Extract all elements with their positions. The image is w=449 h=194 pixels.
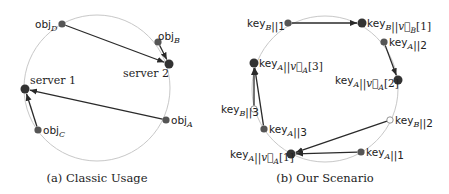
caption-classic-usage: (a) Classic Usage [46,171,147,185]
node-kAv3: keyA||v⃗A[3] [250,57,323,75]
node-objC: objC [34,124,65,139]
node-server2: server 2 [123,60,174,81]
edge-arrow-kA2-to-kAv2 [385,45,396,75]
node-kA1: keyA||1 [357,146,404,162]
server-node-dot [21,85,30,94]
node-label: keyA||2 [389,36,427,52]
edge-arrow-kA1-to-kAv1 [296,152,357,154]
node-label: keyB||1 [247,17,285,33]
hash-ring [252,16,398,162]
node-label: keyA||v⃗A[3] [259,57,323,75]
node-label: server 2 [123,67,169,80]
node-kB3: keyB||3 [221,103,259,119]
node-label: objD [35,18,58,33]
node-objB: objB [154,30,180,46]
open-node-dot [387,117,393,123]
node-kA3: keyA||3 [260,123,307,139]
node-label: keyB||v⃗B[1] [367,17,431,35]
node-label: keyA||1 [366,146,404,162]
node-label: objA [171,114,193,129]
server-node-dot [250,59,259,68]
key-node-dot [284,19,291,26]
key-node-dot [162,116,169,123]
node-server1: server 1 [21,74,76,94]
consistent-hashing-diagram: objDobjBserver 2server 1objAobjC keyB||1… [0,0,449,194]
caption-our-scenario: (b) Our Scenario [276,171,374,185]
node-label: keyA||v⃗A[1] [230,148,294,166]
server-node-dot [358,19,367,28]
edge-arrow-objA-to-server1 [30,90,163,119]
node-kAv2: keyA||v⃗A[2] [335,74,403,92]
key-node-dot [357,148,364,155]
edge-arrow-objD-to-server2 [65,25,164,62]
node-objA: objA [162,114,193,129]
panel-our-scenario: keyB||1keyB||v⃗B[1]keyA||2keyA||v⃗A[3]ke… [221,16,433,166]
node-objD: objD [35,18,66,33]
node-kBv1: keyB||v⃗B[1] [358,17,431,35]
key-node-dot [380,38,387,45]
node-kAv1: keyA||v⃗A[1] [230,148,296,166]
key-node-dot [34,126,41,133]
panel-classic-usage: objDobjBserver 2server 1objAobjC [21,15,194,161]
node-kB2: keyB||2 [387,114,433,130]
key-node-dot [260,125,267,132]
node-label: keyA||v⃗A[2] [335,74,399,92]
node-label: keyB||3 [221,103,259,119]
node-label: keyA||3 [269,123,307,139]
node-kB1: keyB||1 [247,17,292,33]
node-label: objC [43,124,65,139]
node-label: keyB||2 [395,114,433,130]
key-node-dot [58,20,65,27]
node-label: server 1 [30,74,76,87]
